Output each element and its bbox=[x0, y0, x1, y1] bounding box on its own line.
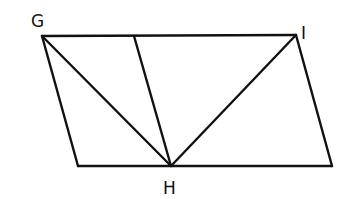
diagonal-i-h bbox=[171, 35, 296, 166]
right-edge bbox=[296, 35, 332, 166]
label-h: H bbox=[163, 178, 176, 198]
top-edge bbox=[42, 35, 296, 36]
segments-group bbox=[42, 35, 332, 166]
label-i: I bbox=[301, 23, 306, 43]
label-g: G bbox=[31, 11, 44, 31]
parallelogram-diagram: G I H bbox=[0, 0, 348, 199]
